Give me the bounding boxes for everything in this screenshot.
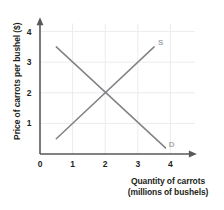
- x-axis-arrow-icon: [189, 151, 197, 158]
- x-tick-label: 4: [163, 159, 177, 169]
- y-axis-arrow-icon: [37, 17, 44, 25]
- x-tick-label: 3: [131, 159, 145, 169]
- y-tick-label: 2: [22, 88, 36, 98]
- x-axis-title-line-1: Quantity of carrots: [112, 176, 224, 187]
- y-tick-label: 3: [22, 57, 36, 67]
- curve-label-d: D: [169, 140, 175, 149]
- y-tick-label: 1: [22, 118, 36, 128]
- gridlines: [40, 23, 195, 154]
- y-axis-title: Price of carrots per bushel ($): [12, 11, 23, 151]
- axes: [37, 17, 197, 157]
- x-tick-label: 1: [66, 159, 80, 169]
- x-axis-title-line-2: (millions of bushels): [112, 187, 224, 198]
- curve-label-s: S: [158, 38, 163, 47]
- origin-label: 0: [33, 159, 47, 169]
- x-tick-label: 2: [98, 159, 112, 169]
- y-tick-label: 4: [22, 27, 36, 37]
- supply-demand-chart: Price of carrots per bushel ($) Quantity…: [0, 0, 224, 210]
- x-axis-title: Quantity of carrots (millions of bushels…: [112, 176, 224, 197]
